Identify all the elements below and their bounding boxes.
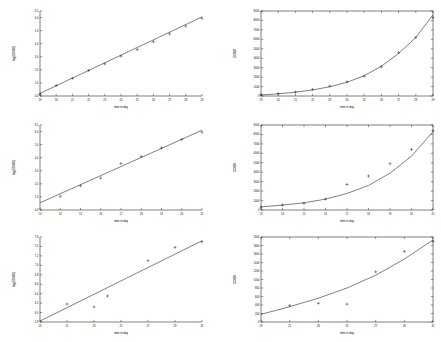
y-axis-label: OD600	[233, 163, 237, 173]
y-tick-label: 1000	[254, 199, 260, 203]
x-tick-label: 21	[66, 324, 69, 328]
y-tick-label: 400	[255, 303, 260, 307]
y-tick-label: 1200	[254, 269, 260, 273]
y-tick-label: 7.0	[35, 263, 39, 267]
y-tick-label: 6.0	[35, 311, 39, 315]
data-point-marker	[403, 250, 406, 253]
data-points	[260, 129, 435, 208]
data-point-marker	[374, 270, 377, 273]
x-tick-label: 25	[346, 324, 349, 328]
x-tick-label: 29	[403, 324, 406, 328]
data-points	[39, 17, 204, 96]
x-tick-label: 19	[160, 212, 163, 216]
data-point-marker	[120, 162, 123, 165]
x-tick-label: 21	[294, 98, 297, 102]
data-points	[260, 16, 435, 96]
data-point-marker	[93, 305, 96, 308]
x-tick-label: 24	[346, 98, 349, 102]
plot-area	[261, 237, 433, 322]
x-tick-label: 21	[288, 324, 291, 328]
x-tick-label: 20	[277, 98, 280, 102]
y-tick-label: 6.6	[35, 282, 39, 286]
data-point-marker	[367, 175, 370, 178]
x-tick-label: 27	[397, 98, 400, 102]
x-tick-label: 22	[311, 98, 314, 102]
x-tick-label: 23	[317, 324, 320, 328]
y-tick-label: 6000	[254, 37, 260, 41]
x-axis-label: time in day	[340, 219, 355, 223]
y-tick-label: 6.8	[35, 273, 39, 277]
x-axis-label: time in day	[114, 331, 129, 335]
y-tick-label: 7.2	[35, 254, 39, 258]
x-axis: 1920212223242526272829time in day	[260, 11, 435, 109]
x-tick-label: 20	[410, 212, 413, 216]
x-tick-label: 21	[432, 212, 435, 216]
x-tick-label: 16	[324, 212, 327, 216]
y-tick-label: 8000	[254, 132, 260, 136]
y-tick-label: 4.0	[35, 42, 39, 46]
data-point-marker	[201, 131, 204, 134]
y-tick-label: 1.0	[35, 81, 39, 85]
x-axis: 131415161718192021time in day	[260, 125, 435, 223]
data-point-marker	[136, 48, 139, 51]
data-point-marker	[66, 303, 69, 306]
x-tick-label: 29	[432, 98, 435, 102]
x-tick-label: 29	[174, 324, 177, 328]
figure-grid: 1920212223242526272829time in day0.01.02…	[0, 0, 441, 342]
plot-area	[261, 125, 433, 210]
x-tick-label: 16	[99, 212, 102, 216]
y-axis: 0.01.02.03.04.05.06.06.5log(OD600)	[12, 9, 42, 98]
plot-panel-2-left: 131415161718192021time in day0.01.02.03.…	[6, 118, 220, 228]
y-tick-label: 2.0	[35, 182, 39, 186]
x-axis-label: time in day	[340, 331, 355, 335]
x-tick-label: 15	[79, 212, 82, 216]
y-axis-label: log(OD600)	[12, 46, 16, 61]
plot-frame	[261, 125, 433, 210]
y-tick-label: 0	[258, 320, 260, 324]
x-tick-label: 20	[55, 98, 58, 102]
y-tick-label: 6.0	[35, 16, 39, 20]
x-tick-label: 21	[71, 98, 74, 102]
data-point-marker	[174, 246, 177, 249]
chart-panel-2-right: 131415161718192021time in day01000200030…	[227, 118, 441, 228]
y-tick-label: 6.2	[35, 301, 39, 305]
y-tick-label: 1.0	[35, 195, 39, 199]
y-tick-label: 5000	[254, 47, 260, 51]
x-tick-label: 28	[414, 98, 417, 102]
y-axis: 5.86.06.26.46.66.87.07.27.47.6log(OD600)	[12, 235, 42, 324]
data-point-marker	[303, 202, 306, 205]
data-point-marker	[311, 88, 314, 91]
y-tick-label: 7000	[254, 28, 260, 32]
y-tick-label: 4000	[254, 170, 260, 174]
y-tick-label: 4000	[254, 56, 260, 60]
plot-area	[40, 125, 202, 210]
y-tick-label: 9000	[254, 123, 260, 127]
y-tick-label: 0	[258, 94, 260, 98]
x-tick-label: 18	[140, 212, 143, 216]
fit-line	[40, 241, 202, 321]
x-tick-label: 19	[260, 98, 263, 102]
plot-axes	[40, 125, 202, 210]
x-tick-label: 19	[260, 324, 263, 328]
y-tick-label: 0.0	[35, 208, 39, 212]
x-tick-label: 31	[432, 324, 435, 328]
y-tick-label: 0	[258, 208, 260, 212]
x-tick-label: 25	[363, 98, 366, 102]
y-tick-label: 4.0	[35, 156, 39, 160]
plot-panel-2-right: 131415161718192021time in day01000200030…	[227, 118, 441, 228]
x-tick-label: 19	[389, 212, 392, 216]
x-tick-label: 15	[303, 212, 306, 216]
y-tick-label: 6.0	[35, 130, 39, 134]
data-point-marker	[260, 206, 263, 209]
y-tick-label: 7000	[254, 142, 260, 146]
x-tick-label: 23	[328, 98, 331, 102]
x-tick-label: 29	[201, 98, 204, 102]
x-tick-label: 26	[152, 98, 155, 102]
y-axis: 0100020003000400050006000700080009000OD6…	[233, 123, 433, 212]
y-tick-label: 3000	[254, 66, 260, 70]
x-tick-label: 17	[346, 212, 349, 216]
x-axis-label: time in day	[114, 105, 129, 109]
y-tick-label: 1400	[254, 261, 260, 265]
chart-panel-1-left: 1920212223242526272829time in day0.01.02…	[6, 4, 220, 114]
y-tick-label: 0.0	[35, 94, 39, 98]
